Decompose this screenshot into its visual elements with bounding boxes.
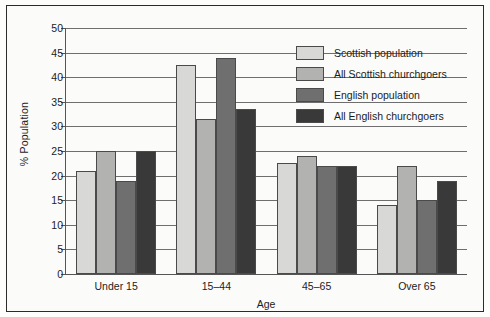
legend: Scottish populationAll Scottish churchgo… — [296, 46, 447, 123]
legend-label: English population — [334, 89, 420, 101]
y-tick-label: 20 — [29, 170, 63, 182]
bar — [176, 65, 196, 274]
legend-swatch — [296, 109, 324, 123]
y-tick-label: 10 — [29, 219, 63, 231]
x-axis-title: Age — [257, 298, 276, 310]
chart-figure: % Population 05101520253035404550 Under … — [0, 0, 490, 317]
y-tick-label: 5 — [29, 243, 63, 255]
x-category-label: Under 15 — [95, 280, 138, 292]
legend-label: All English churchgoers — [334, 110, 444, 122]
legend-label: All Scottish churchgoers — [334, 68, 447, 80]
chart-frame: % Population 05101520253035404550 Under … — [6, 5, 484, 312]
bar — [437, 181, 457, 274]
bar — [196, 119, 216, 274]
legend-item: All Scottish churchgoers — [296, 67, 447, 81]
bar — [96, 151, 116, 274]
x-category-label: Over 65 — [398, 280, 435, 292]
y-tick-label: 15 — [29, 194, 63, 206]
bar — [236, 109, 256, 274]
y-tick-label: 35 — [29, 96, 63, 108]
y-tick-label: 40 — [29, 71, 63, 83]
bar — [136, 151, 156, 274]
x-category-label: 15–44 — [202, 280, 231, 292]
bar — [337, 166, 357, 274]
bar — [397, 166, 417, 274]
legend-label: Scottish population — [334, 47, 423, 59]
y-tick-label: 0 — [29, 268, 63, 280]
legend-item: All English churchgoers — [296, 109, 447, 123]
bar-group — [166, 28, 266, 274]
legend-swatch — [296, 46, 324, 60]
bar — [216, 58, 236, 274]
x-category-label: 45–65 — [302, 280, 331, 292]
legend-item: English population — [296, 88, 447, 102]
bar — [116, 181, 136, 274]
legend-swatch — [296, 88, 324, 102]
y-tick-label: 45 — [29, 47, 63, 59]
y-tick-label: 30 — [29, 120, 63, 132]
bar — [277, 163, 297, 274]
y-tick-label: 50 — [29, 22, 63, 34]
bar — [377, 205, 397, 274]
bar — [417, 200, 437, 274]
y-tick-label: 25 — [29, 145, 63, 157]
bar — [297, 156, 317, 274]
bar-group — [66, 28, 166, 274]
legend-item: Scottish population — [296, 46, 447, 60]
legend-swatch — [296, 67, 324, 81]
bar — [317, 166, 337, 274]
bar — [76, 171, 96, 274]
